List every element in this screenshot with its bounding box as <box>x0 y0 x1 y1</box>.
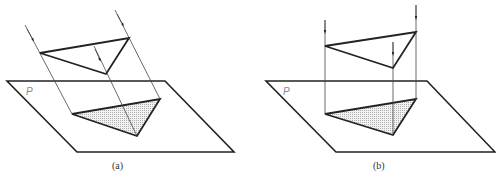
caption-b: (b) <box>373 160 385 172</box>
arrow-icon <box>95 49 100 60</box>
panel-b: P (b) <box>266 5 495 172</box>
caption-a: (a) <box>112 160 123 172</box>
plane-label: P <box>26 86 33 97</box>
original-triangle <box>325 32 416 68</box>
projection-diagram: P (a) P (b) <box>0 0 496 182</box>
projected-triangle <box>72 99 160 136</box>
projected-triangle <box>325 99 416 135</box>
arrow-icon <box>27 29 33 40</box>
original-triangle <box>40 38 129 74</box>
arrow-icon <box>117 14 123 25</box>
plane-label: P <box>283 86 290 97</box>
panel-a: P (a) <box>7 10 234 172</box>
